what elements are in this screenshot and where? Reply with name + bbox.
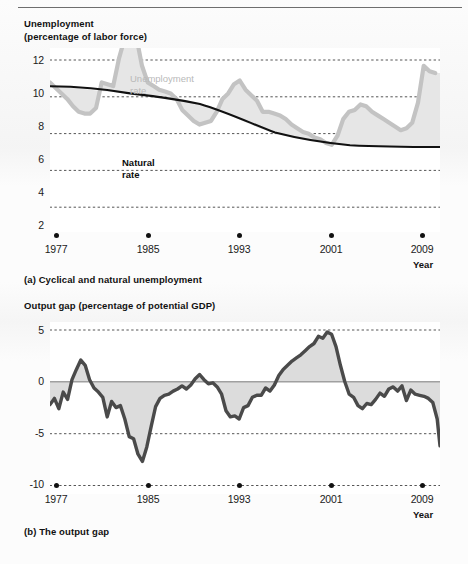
- panel-b-xtick-2009: 2009: [398, 493, 446, 505]
- panel-a-xdot-2009: [420, 233, 425, 238]
- panel-a-xdot-1985: [146, 233, 151, 238]
- panel-a-xtick-2009: 2009: [398, 243, 446, 255]
- panel-b-gap-fill: [50, 332, 440, 461]
- panel-b-svg: [50, 322, 440, 494]
- top-divider-rule: [18, 7, 462, 8]
- panel-a-axis-title: Unemployment (percentage of labor force): [24, 18, 147, 43]
- panel-cyclical-and-natural-unemployment: Unemployment (percentage of labor force)…: [0, 12, 468, 288]
- panel-a-caption: (a) Cyclical and natural unemployment: [24, 274, 202, 285]
- panel-a-label-natural-rate: Natural rate: [122, 157, 155, 181]
- panel-a-xtick-1993: 1993: [215, 243, 263, 255]
- panel-b-ytick-0: 0: [18, 375, 44, 387]
- panel-b-ytick-neg5: -5: [18, 427, 44, 439]
- panel-the-output-gap: Output gap (percentage of potential GDP)…: [0, 292, 468, 564]
- panel-b-ytick-5: 5: [18, 324, 44, 336]
- panel-b-xtick-1993: 1993: [215, 493, 263, 505]
- panel-b-xtick-2001: 2001: [307, 493, 355, 505]
- panel-a-ytick-2: 2: [18, 219, 44, 231]
- panel-a-ytick-6: 6: [18, 153, 44, 165]
- panel-b-caption: (b) The output gap: [24, 526, 109, 537]
- figure-container: Unemployment (percentage of labor force)…: [0, 0, 468, 564]
- panel-a-ytick-4: 4: [18, 186, 44, 198]
- panel-b-axis-title: Output gap (percentage of potential GDP): [24, 300, 215, 313]
- panel-b-xtick-1985: 1985: [124, 493, 172, 505]
- panel-a-ytick-8: 8: [18, 120, 44, 132]
- panel-b-xdot-1985: [146, 483, 151, 488]
- panel-a-xtick-1985: 1985: [124, 243, 172, 255]
- panel-a-xdot-1977: [54, 233, 59, 238]
- panel-a-label-unemployment-rate: Unemployment rate: [130, 73, 194, 97]
- panel-b-x-axis-label: Year: [413, 509, 433, 520]
- panel-a-xdot-2001: [329, 233, 334, 238]
- panel-a-plot-area: [50, 48, 440, 232]
- panel-b-xdot-1993: [237, 483, 242, 488]
- panel-a-cyclical-fill: [50, 48, 440, 147]
- panel-a-ytick-10: 10: [18, 87, 44, 99]
- panel-a-svg: [50, 48, 440, 232]
- panel-a-ytick-12: 12: [18, 54, 44, 66]
- panel-a-xtick-1977: 1977: [32, 243, 80, 255]
- panel-b-plot-area: [50, 322, 440, 494]
- panel-a-xtick-2001: 2001: [307, 243, 355, 255]
- panel-b-xdot-2001: [329, 483, 334, 488]
- panel-b-ytick-neg10: -10: [18, 478, 44, 490]
- panel-a-x-axis-label: Year: [413, 259, 433, 270]
- panel-b-xtick-1977: 1977: [32, 493, 80, 505]
- panel-b-xdot-2009: [420, 483, 425, 488]
- panel-a-xdot-1993: [237, 233, 242, 238]
- panel-b-xdot-1977: [54, 483, 59, 488]
